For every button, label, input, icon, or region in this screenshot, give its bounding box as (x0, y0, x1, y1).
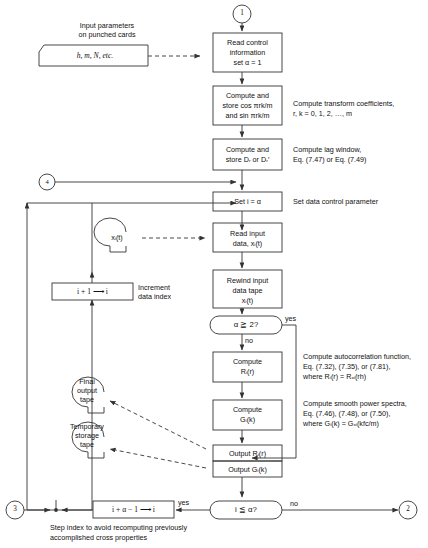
box-compute-d-line1: Compute and (213, 145, 282, 155)
annotation-autocorrelation-line1: Compute autocorrelation function, (303, 352, 411, 362)
box-compute-cos-line1: Compute and (213, 91, 282, 101)
edge-output-g-to-temp-tape (110, 449, 206, 468)
decision-alpha-yes-label: yes (285, 314, 296, 324)
box-rewind-line3: xᵢ(t) (213, 296, 282, 306)
annotation-lag-line2: Eq. (7.47) or Eq. (7.49) (293, 155, 367, 165)
annotation-data-control-line1: Set data control parameter (293, 197, 378, 207)
connector-4-label: 4 (39, 177, 55, 187)
input-note-line2: on punched cards (52, 30, 162, 40)
box-increment-line1: i + 1 ⟶ i (52, 287, 133, 297)
decision-alpha-no-label: no (245, 336, 253, 346)
box-output-r-line1: Output Rᵢ(r) (213, 449, 282, 459)
annotation-spectra-line2: Eq. (7.46), (7.48), or (7.50), (303, 409, 391, 419)
decision-i-text: i ≦ α? (210, 505, 282, 515)
edge-decision-yes-bypass (252, 325, 296, 458)
tape-final-line3: tape (70, 395, 104, 405)
annotation-spectra-line3: where Gᵢ(k) = Gₓᵢ(kfᴄ/m) (303, 419, 379, 429)
annotation-autocorrelation-line2: Eq. (7.32), (7.35), or (7.81), (303, 362, 391, 372)
box-read-input-line2: data, xᵢ(t) (213, 239, 282, 249)
box-read-input-line1: Read input (213, 229, 282, 239)
rail-increment-bottom (56, 500, 92, 510)
box-read-control-line3: set α = 1 (213, 58, 282, 68)
box-read-control-line1: Read control (213, 38, 282, 48)
box-compute-cos-line3: and sin πrk/m (213, 111, 282, 121)
annotation-transform-line1: Compute transform coefficients, (293, 99, 394, 109)
box-read-control-line2: information (213, 48, 282, 58)
box-step-index-line1: i + α − 1 ⟶ i (93, 505, 174, 515)
annotation-step-note-line1: Step index to avoid recomputing previous… (50, 523, 187, 533)
connector-1-label: 1 (233, 9, 251, 19)
edge-output-r-to-final-tape (110, 401, 206, 449)
box-rewind-line2: data tape (213, 286, 282, 296)
annotation-lag-line1: Compute lag window, (293, 145, 361, 155)
annotation-spectra-line1: Compute smooth power spectra, (303, 399, 407, 409)
annotation-autocorrelation-line3: where Rᵢ(r) = Rₓᵢ(rh) (303, 372, 366, 382)
box-compute-g-line1: Compute (213, 405, 282, 415)
box-compute-r-line2: Rᵢ(r) (213, 367, 282, 377)
tape-input-label: xᵢ(t) (98, 233, 136, 243)
annotation-increment-line2: data index (138, 292, 171, 302)
box-set-i-line1: Set i = α (213, 197, 282, 207)
box-rewind-line1: Rewind input (213, 276, 282, 286)
tape-temp-line3: tape (67, 440, 107, 450)
decision-i-yes-label: yes (178, 498, 189, 508)
box-compute-d-line2: store Dᵣ or Dᵣ′ (213, 155, 282, 165)
box-compute-cos-line2: store cos πrk/m (213, 101, 282, 111)
connector-2-label: 2 (400, 505, 416, 515)
connector-3-label: 3 (7, 505, 23, 515)
rail-left-bottom (27, 500, 56, 510)
decision-i-no-label: no (290, 499, 298, 509)
box-output-g-line1: Output Gᵢ(k) (213, 465, 282, 475)
decision-alpha-text: α ≧ 2? (210, 320, 282, 330)
punched-card-text: h, m, N, etc. (45, 51, 145, 61)
box-compute-g-line2: Gᵢ(k) (213, 415, 282, 425)
box-compute-r-line1: Compute (213, 357, 282, 367)
annotation-transform-line2: r, k = 0, 1, 2, …, m (293, 109, 352, 119)
annotation-step-note-line2: accomplished cross properties (50, 533, 147, 543)
